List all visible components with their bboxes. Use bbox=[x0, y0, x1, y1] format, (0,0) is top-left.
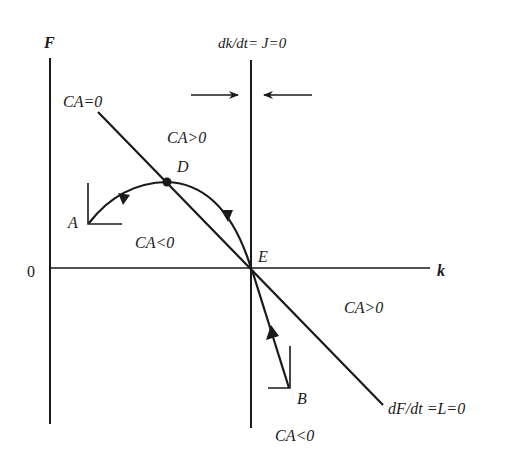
j-zero-label: dk/dt= J=0 bbox=[218, 35, 287, 51]
origin-label: 0 bbox=[27, 263, 35, 280]
phase-diagram: F k 0 dk/dt= J=0 CA=0 dF/dt =L=0 CA>0 CA… bbox=[0, 0, 514, 465]
f-axis-label: F bbox=[43, 34, 55, 51]
point-b-label: B bbox=[297, 390, 307, 407]
ca-zero-locus bbox=[98, 112, 383, 405]
trajectory-arrow-icon bbox=[221, 210, 233, 222]
region-label: CA<0 bbox=[275, 427, 314, 444]
l-zero-label: dF/dt =L=0 bbox=[388, 400, 465, 417]
region-label: CA>0 bbox=[344, 299, 383, 316]
point-a-label: A bbox=[67, 214, 78, 231]
k-axis-label: k bbox=[437, 262, 445, 279]
point-e-label: E bbox=[257, 248, 268, 265]
trajectory-arrow-icon bbox=[266, 325, 279, 340]
point-d-label: D bbox=[176, 158, 189, 175]
trajectory-arrow-icon bbox=[118, 193, 130, 205]
point-d bbox=[163, 178, 172, 187]
ca-zero-label: CA=0 bbox=[63, 93, 102, 110]
region-label: CA<0 bbox=[135, 234, 174, 251]
trajectory-a-d-e bbox=[89, 182, 251, 268]
region-label: CA>0 bbox=[167, 129, 206, 146]
